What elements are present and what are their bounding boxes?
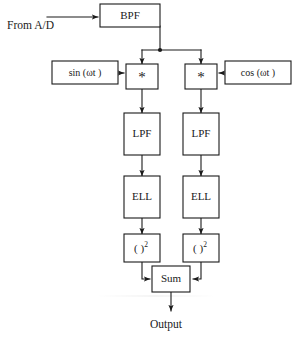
block-ell-right-label: ELL	[191, 190, 211, 202]
signal-chain-diagram: BPF sin (ωt ) cos (ωt ) * * LPF LPF ELL …	[0, 0, 295, 339]
block-multiplier-left-label: *	[138, 69, 146, 85]
block-bpf-label: BPF	[120, 9, 140, 21]
block-cos-label: cos (ωt )	[241, 67, 275, 79]
block-square-right-base: ( )	[193, 242, 203, 255]
block-square-left-exponent: 2	[144, 240, 148, 249]
block-square-left-base: ( )	[134, 242, 144, 255]
block-lpf-right-label: LPF	[192, 127, 211, 139]
block-square-right-exponent: 2	[203, 240, 207, 249]
block-multiplier-right-label: *	[197, 69, 205, 85]
wire-square-left-to-sum	[142, 262, 150, 279]
block-lpf-left-label: LPF	[133, 127, 152, 139]
output-label: Output	[150, 318, 183, 331]
junction-dot	[158, 48, 162, 52]
block-ell-left-label: ELL	[132, 190, 152, 202]
wire-square-right-to-sum	[193, 262, 201, 279]
block-sin-label: sin (ωt )	[69, 67, 102, 79]
input-source-label: From A/D	[7, 19, 54, 31]
block-sum-label: Sum	[161, 272, 182, 284]
block-diagram-page: BPF sin (ωt ) cos (ωt ) * * LPF LPF ELL …	[0, 0, 295, 339]
